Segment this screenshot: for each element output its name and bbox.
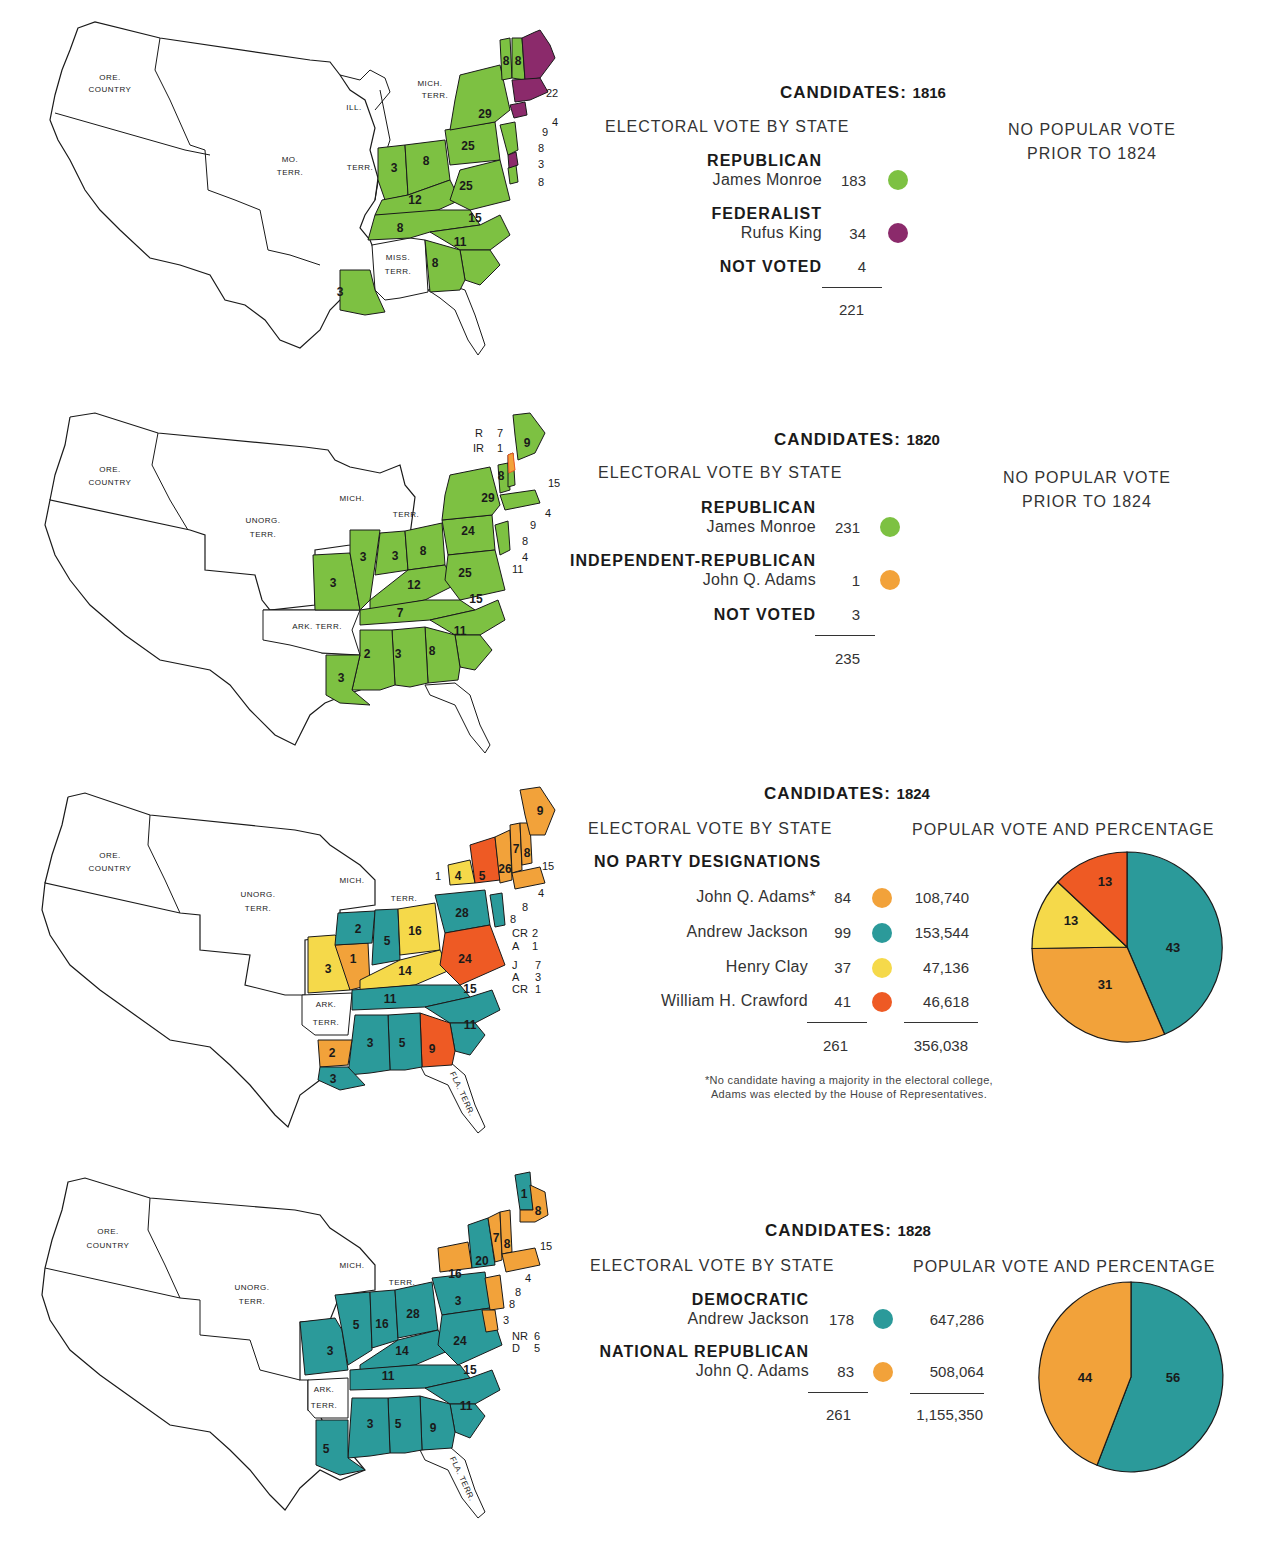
electoral-count: 231 (835, 519, 860, 536)
panel-1828: ORE. COUNTRY UNORG. TERR. MICH. TERR. AR… (0, 1170, 1272, 1547)
svg-text:11: 11 (382, 1369, 395, 1383)
svg-text:6: 6 (534, 1330, 540, 1342)
svg-text:5: 5 (384, 934, 391, 948)
svg-text:31: 31 (1098, 977, 1112, 992)
electoral-count: 34 (849, 225, 866, 242)
panel-title: CANDIDATES: 1816 (780, 83, 946, 103)
party-label: REPUBLICAN (701, 499, 816, 517)
popular-total-rule (904, 1022, 978, 1023)
svg-text:2: 2 (364, 647, 371, 661)
svg-text:5: 5 (353, 1318, 360, 1332)
svg-text:11: 11 (460, 1399, 473, 1413)
footnote: *No candidate having a majority in the e… (705, 1073, 993, 1101)
svg-text:3: 3 (392, 549, 399, 563)
not-voted-label: NOT VOTED (714, 606, 816, 624)
svg-text:ARK.: ARK. (314, 1385, 335, 1394)
svg-text:8: 8 (510, 913, 516, 925)
svg-text:TERR.: TERR. (250, 530, 277, 539)
svg-text:ORE.: ORE. (99, 851, 121, 860)
popular-total: 1,155,350 (916, 1406, 983, 1423)
candidate-name: John Q. Adams (696, 1362, 809, 1380)
svg-text:9: 9 (429, 1042, 436, 1056)
svg-text:4: 4 (545, 507, 551, 519)
svg-text:28: 28 (455, 906, 469, 920)
svg-text:4: 4 (552, 116, 558, 128)
not-voted-label: NOT VOTED (720, 258, 822, 276)
svg-text:7: 7 (535, 959, 541, 971)
not-voted-count: 3 (852, 606, 860, 623)
clay-color-dot (872, 958, 892, 978)
svg-text:UNORG.: UNORG. (235, 1283, 270, 1292)
svg-text:8: 8 (397, 221, 404, 235)
svg-text:11: 11 (384, 992, 397, 1006)
svg-text:8: 8 (522, 535, 528, 547)
no-popular-vote-note: NO POPULAR VOTE PRIOR TO 1824 (1003, 466, 1171, 514)
svg-text:TERR.: TERR. (422, 91, 449, 100)
svg-text:29: 29 (481, 491, 495, 505)
electoral-heading: ELECTORAL VOTE BY STATE (598, 464, 842, 482)
svg-text:ORE.: ORE. (99, 465, 121, 474)
svg-text:9: 9 (524, 436, 531, 450)
popular-total-rule (910, 1393, 984, 1394)
party-label: FEDERALIST (712, 205, 822, 223)
svg-text:TERR.: TERR. (385, 267, 412, 276)
svg-text:16: 16 (408, 924, 422, 938)
candidate-name: John Q. Adams* (696, 888, 816, 906)
svg-text:3: 3 (395, 647, 402, 661)
svg-text:3: 3 (538, 158, 544, 170)
popular-heading: POPULAR VOTE AND PERCENTAGE (913, 1258, 1215, 1276)
svg-text:7: 7 (497, 427, 503, 439)
svg-text:COUNTRY: COUNTRY (87, 1241, 130, 1250)
popular-count: 47,136 (923, 959, 969, 976)
candidate-name: Andrew Jackson (686, 923, 808, 941)
adams-color-dot (872, 888, 892, 908)
svg-text:11: 11 (454, 624, 467, 638)
svg-text:TERR.: TERR. (245, 904, 272, 913)
svg-text:28: 28 (406, 1307, 420, 1321)
pie-chart-1828: 56 44 (1036, 1280, 1226, 1474)
svg-text:COUNTRY: COUNTRY (89, 478, 132, 487)
popular-heading: POPULAR VOTE AND PERCENTAGE (912, 821, 1214, 839)
svg-text:1: 1 (532, 940, 538, 952)
svg-text:15: 15 (540, 1240, 552, 1252)
svg-text:3: 3 (327, 1344, 334, 1358)
electoral-count: 84 (834, 889, 851, 906)
svg-text:1: 1 (435, 870, 441, 882)
svg-text:8: 8 (429, 644, 436, 658)
svg-text:3: 3 (455, 1294, 462, 1308)
svg-text:COUNTRY: COUNTRY (89, 85, 132, 94)
svg-text:3: 3 (391, 161, 398, 175)
jackson-color-dot (872, 923, 892, 943)
svg-text:TERR.: TERR. (277, 168, 304, 177)
electoral-heading: ELECTORAL VOTE BY STATE (590, 1257, 834, 1275)
svg-text:8: 8 (515, 54, 522, 68)
svg-text:8: 8 (522, 901, 528, 913)
popular-count: 508,064 (930, 1363, 984, 1380)
svg-text:D: D (512, 1342, 520, 1354)
popular-count: 108,740 (915, 889, 969, 906)
popular-count: 153,544 (915, 924, 969, 941)
candidate-name: Rufus King (741, 224, 822, 242)
candidate-name: Henry Clay (726, 958, 808, 976)
svg-text:ILL.: ILL. (346, 103, 361, 112)
svg-text:15: 15 (468, 211, 482, 225)
svg-text:MO.: MO. (282, 155, 299, 164)
svg-text:IR: IR (473, 442, 484, 454)
electoral-total-rule (808, 1392, 868, 1393)
svg-text:TERR.: TERR. (393, 510, 420, 519)
svg-text:8: 8 (420, 544, 427, 558)
svg-text:CR: CR (512, 927, 528, 939)
svg-text:24: 24 (461, 524, 475, 538)
svg-text:R: R (475, 427, 483, 439)
electoral-total: 261 (823, 1037, 848, 1054)
crawford-color-dot (872, 992, 892, 1012)
svg-text:NR: NR (512, 1330, 528, 1342)
svg-text:3: 3 (360, 550, 367, 564)
svg-text:MICH.: MICH. (417, 79, 442, 88)
svg-text:9: 9 (530, 519, 536, 531)
svg-text:24: 24 (458, 952, 472, 966)
svg-text:25: 25 (458, 566, 472, 580)
svg-text:11: 11 (464, 1018, 477, 1032)
svg-text:15: 15 (469, 592, 483, 606)
svg-text:9: 9 (430, 1421, 437, 1435)
